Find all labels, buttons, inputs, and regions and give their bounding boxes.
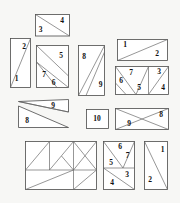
piece-label-5: 5	[59, 51, 63, 60]
figure-canvas: 3 4 2 1 5 7 6 8 9 1 2	[0, 0, 180, 203]
piece-label-8: 8	[25, 116, 29, 125]
piece-label-2: 2	[22, 42, 26, 51]
piece-2-1[interactable]: 2 1	[11, 39, 31, 88]
piece-label-3: 3	[39, 25, 43, 34]
piece-label-9: 9	[127, 119, 131, 128]
piece-complex-large-outline	[26, 142, 97, 190]
piece-label-4: 4	[110, 178, 114, 187]
piece-label-3: 3	[125, 170, 129, 179]
piece-label-9: 9	[99, 80, 103, 89]
piece-label-2: 2	[148, 175, 152, 184]
piece-label-7: 7	[42, 70, 46, 79]
piece-label-5: 5	[109, 158, 113, 167]
piece-label-10: 10	[93, 114, 101, 123]
piece-3-4[interactable]: 3 4	[36, 15, 70, 37]
piece-label-7: 7	[126, 151, 130, 160]
piece-6-7-5-4-3[interactable]: 6 7 5 4 3	[104, 142, 135, 190]
piece-label-5: 5	[137, 83, 141, 92]
piece-label-8: 8	[82, 52, 86, 61]
piece-label-1: 1	[15, 74, 19, 83]
piece-label-1: 1	[161, 145, 165, 154]
piece-label-6: 6	[118, 142, 122, 151]
piece-1-2-tall[interactable]: 1 2	[145, 142, 168, 190]
piece-label-3: 3	[157, 67, 161, 76]
piece-complex-large[interactable]	[26, 142, 97, 190]
piece-9-8-cross[interactable]: 9 8	[116, 109, 169, 130]
piece-label-9: 9	[51, 101, 55, 110]
piece-label-4: 4	[161, 83, 165, 92]
piece-10[interactable]: 10	[87, 110, 109, 129]
piece-6-7-5-3-4[interactable]: 7 6 5 3 4	[116, 67, 169, 95]
piece-label-6: 6	[52, 78, 56, 87]
piece-1-2-wide[interactable]: 1 2	[118, 40, 168, 61]
piece-8-9-tall[interactable]: 8 9	[79, 46, 105, 96]
piece-label-8: 8	[159, 110, 163, 119]
piece-label-7: 7	[129, 68, 133, 77]
piece-label-2: 2	[155, 49, 159, 58]
piece-label-4: 4	[60, 16, 64, 25]
piece-9-8-wide[interactable]: 9 8	[19, 100, 69, 128]
piece-5-7-6[interactable]: 5 7 6	[37, 46, 69, 88]
tangram-layout-figure: 3 4 2 1 5 7 6 8 9 1 2	[0, 0, 180, 203]
piece-label-1: 1	[123, 40, 127, 49]
piece-label-6: 6	[119, 76, 123, 85]
